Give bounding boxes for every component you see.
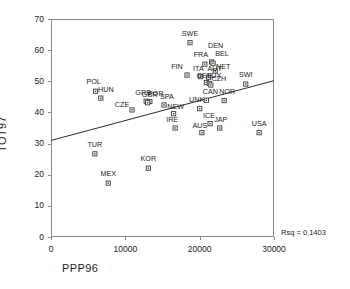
point-center-dot	[245, 83, 246, 84]
point-center-dot	[174, 127, 175, 128]
point-center-dot	[206, 100, 207, 101]
point-label: GBR	[142, 90, 158, 99]
point-center-dot	[201, 132, 202, 133]
point-label: NEW	[167, 102, 184, 111]
point-label: FIN	[171, 62, 183, 71]
point-label: IRE	[166, 115, 178, 124]
y-tick-mark	[48, 19, 51, 20]
point-center-dot	[258, 132, 259, 133]
point-center-dot	[189, 42, 190, 43]
y-tick-label: 20	[20, 169, 44, 179]
point-label: CZH	[211, 74, 226, 83]
y-tick-label: 0	[20, 232, 44, 242]
point-center-dot	[163, 104, 164, 105]
data-point: NEW	[167, 102, 184, 116]
point-center-dot	[186, 74, 187, 75]
point-label: HUN	[98, 85, 114, 94]
scatter-plot-area: SWEDENFRABELNETFINITAAUTGERLUXCZHSWIPOLH…	[51, 19, 274, 237]
y-tick-label: 30	[20, 138, 44, 148]
point-label: SWI	[239, 70, 253, 79]
data-point: FIN	[171, 62, 189, 77]
y-tick-label: 10	[20, 200, 44, 210]
data-point: CZH	[209, 74, 226, 87]
point-center-dot	[210, 84, 211, 85]
point-center-dot	[94, 153, 95, 154]
x-tick-mark	[125, 237, 126, 240]
point-label: BEL	[215, 49, 229, 58]
point-label: USA	[252, 119, 267, 128]
point-label: MEX	[100, 169, 116, 178]
point-label: SPA	[160, 92, 174, 101]
data-point: SWE	[182, 29, 199, 45]
y-tick-label: 60	[20, 45, 44, 55]
point-label: TUR	[87, 140, 102, 149]
x-tick-label: 30000	[249, 244, 299, 254]
rsq-annotation: Rsq = 0,1403	[281, 228, 326, 237]
x-tick-label: 20000	[175, 244, 225, 254]
data-point: AUS	[193, 121, 208, 135]
x-tick-mark	[51, 237, 52, 240]
point-center-dot	[148, 167, 149, 168]
y-tick-mark	[48, 144, 51, 145]
point-center-dot	[108, 182, 109, 183]
data-point: MEX	[100, 169, 116, 185]
point-label: SWE	[182, 29, 199, 38]
y-tick-mark	[48, 112, 51, 113]
point-label: CZE	[115, 100, 130, 109]
point-center-dot	[147, 102, 148, 103]
x-tick-label: 10000	[100, 244, 150, 254]
x-tick-mark	[274, 237, 275, 240]
point-label: FRA	[194, 50, 209, 59]
point-center-dot	[204, 63, 205, 64]
data-point: CZE	[115, 100, 134, 112]
y-tick-mark	[48, 206, 51, 207]
x-tick-label: 0	[26, 244, 76, 254]
data-point: UNK	[189, 95, 204, 111]
y-tick-label: 50	[20, 76, 44, 86]
data-point: USA	[252, 119, 267, 135]
data-point: IRE	[166, 115, 178, 130]
point-label: JAP	[214, 115, 227, 124]
y-tick-label: 40	[20, 107, 44, 117]
chart-canvas: SWEDENFRABELNETFINITAAUTGERLUXCZHSWIPOLH…	[0, 0, 350, 289]
data-point: KOR	[141, 154, 157, 170]
x-axis-title: PPP96	[62, 262, 98, 274]
point-center-dot	[209, 123, 210, 124]
x-tick-mark	[200, 237, 201, 240]
point-center-dot	[95, 91, 96, 92]
point-label: AUS	[193, 121, 208, 130]
point-label: CAN	[203, 87, 218, 96]
y-tick-mark	[48, 175, 51, 176]
y-tick-mark	[48, 50, 51, 51]
data-point: CAN	[203, 87, 218, 102]
data-point: TUR	[87, 140, 102, 156]
y-axis-title: TOT97	[0, 116, 8, 152]
y-tick-mark	[48, 81, 51, 82]
y-tick-label: 70	[20, 14, 44, 24]
point-label: KOR	[141, 154, 157, 163]
point-center-dot	[199, 108, 200, 109]
data-point: JAP	[214, 115, 227, 130]
point-center-dot	[223, 100, 224, 101]
data-point: HUN	[98, 85, 114, 100]
point-label: NOR	[219, 87, 235, 96]
data-point: SWI	[239, 70, 253, 86]
point-center-dot	[100, 97, 101, 98]
point-center-dot	[131, 109, 132, 110]
point-center-dot	[219, 127, 220, 128]
data-point: NOR	[219, 87, 235, 103]
